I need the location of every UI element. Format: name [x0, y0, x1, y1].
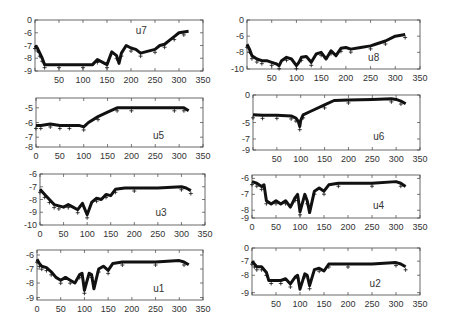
plot-frame	[40, 174, 205, 225]
x-tick-label: 0	[249, 222, 254, 232]
x-tick-label: 350	[195, 151, 210, 161]
plot-frame	[252, 248, 420, 295]
x-tick-label: 250	[148, 151, 163, 161]
y-tick-label: -6	[24, 28, 32, 38]
x-tick-label: 300	[388, 222, 403, 232]
x-tick-label: 50	[54, 75, 64, 85]
x-tick-label: 350	[412, 222, 427, 232]
data-series	[247, 35, 405, 66]
subplot-label: u7	[136, 25, 148, 36]
x-tick-label: 300	[172, 304, 187, 314]
x-tick-label: 200	[124, 304, 139, 314]
x-tick-label: 250	[364, 222, 379, 232]
x-tick-label: 200	[338, 73, 353, 83]
x-tick-label: 100	[292, 299, 307, 309]
x-tick-label: 50	[56, 304, 66, 314]
y-tick-label: -7	[26, 264, 34, 274]
x-tick-label: 50	[271, 299, 281, 309]
y-tick-label: -8	[26, 278, 34, 288]
subplot-label: u8	[368, 52, 380, 63]
x-tick-label: 250	[150, 229, 165, 239]
x-tick-label: 150	[101, 304, 116, 314]
y-tick-label: -6	[241, 173, 249, 183]
x-tick-label: 100	[292, 222, 307, 232]
y-tick-label: -8	[241, 270, 249, 280]
x-tick-label: 300	[388, 299, 403, 309]
x-tick-label: 100	[289, 73, 304, 83]
y-tick-label: -9	[242, 145, 250, 155]
x-tick-label: 200	[341, 154, 356, 164]
y-tick-label: -6	[236, 31, 244, 41]
x-tick-label: 150	[317, 154, 332, 164]
y-tick-label: -6	[25, 118, 33, 128]
y-tick-label: -8	[236, 47, 244, 57]
x-tick-label: 50	[272, 154, 282, 164]
y-tick-label: -10	[24, 220, 37, 230]
subplot-u7: 501001502002503003500-6-7-8-9u7	[24, 15, 211, 85]
x-tick-label: 200	[340, 299, 355, 309]
subplot-u3: 050100150200250300350-6-7-8-9-10u3	[24, 169, 213, 239]
y-tick-label: 0	[244, 243, 249, 253]
x-tick-label: 200	[340, 222, 355, 232]
x-tick-label: 100	[76, 151, 91, 161]
y-tick-label: -7	[25, 132, 33, 142]
y-tick-label: -5	[25, 103, 33, 113]
x-tick-label: 150	[314, 73, 329, 83]
x-tick-label: 150	[99, 75, 114, 85]
x-tick-label: 250	[365, 154, 380, 164]
x-tick-label: 100	[77, 304, 92, 314]
y-tick-label: -8	[29, 195, 37, 205]
y-tick-label: 0	[27, 15, 32, 25]
y-tick-label: -6	[26, 250, 34, 260]
y-tick-label: -7	[29, 182, 37, 192]
x-tick-label: 300	[172, 151, 187, 161]
y-tick-label: 0	[239, 15, 244, 25]
y-tick-label: -7	[241, 189, 249, 199]
plot-frame	[253, 95, 420, 150]
x-tick-label: 200	[123, 75, 138, 85]
y-tick-label: 0	[245, 90, 250, 100]
y-tick-label: -10	[231, 64, 244, 74]
x-tick-label: 250	[363, 73, 378, 83]
x-tick-label: 250	[148, 304, 163, 314]
y-tick-label: -7	[242, 134, 250, 144]
y-tick-label: -7	[24, 41, 32, 51]
subplot-label: u6	[373, 131, 385, 142]
x-tick-label: 50	[267, 73, 277, 83]
figure-canvas: 501001502002503003500-6-7-8-9u7501001502…	[0, 0, 449, 325]
data-series	[37, 259, 189, 290]
x-tick-label: 250	[147, 75, 162, 85]
x-tick-label: 100	[293, 154, 308, 164]
data-series	[35, 31, 189, 64]
x-tick-label: 200	[124, 151, 139, 161]
x-tick-label: 150	[103, 229, 118, 239]
x-tick-label: 150	[316, 299, 331, 309]
plot-frame	[37, 250, 203, 300]
x-tick-label: 0	[37, 229, 42, 239]
plot-frame	[36, 98, 203, 147]
y-tick-label: -8	[24, 53, 32, 63]
y-tick-label: -5	[242, 118, 250, 128]
x-tick-label: 200	[127, 229, 142, 239]
y-tick-label: -9	[24, 66, 32, 76]
subplot-label: u1	[153, 283, 165, 294]
subplot-u4: 050100150200250300350-6-7-8-9u4	[241, 173, 428, 232]
x-tick-label: 50	[55, 151, 65, 161]
x-tick-label: 150	[100, 151, 115, 161]
subplot-u5: 050100150200250300350-5-6-7-8u5	[25, 98, 211, 161]
x-tick-label: 350	[412, 299, 427, 309]
y-tick-label: -9	[241, 288, 249, 298]
x-tick-label: 100	[80, 229, 95, 239]
y-tick-label: -7	[241, 256, 249, 266]
subplot-label: u2	[370, 278, 382, 289]
x-tick-label: 250	[364, 299, 379, 309]
x-tick-label: 350	[195, 304, 210, 314]
x-tick-label: 300	[389, 154, 404, 164]
x-tick-label: 350	[195, 75, 210, 85]
y-tick-label: -9	[29, 207, 37, 217]
x-tick-label: 50	[59, 229, 69, 239]
y-tick-label: -9	[241, 213, 249, 223]
subplot-label: u3	[156, 207, 168, 218]
subplot-label: u4	[373, 200, 385, 211]
x-tick-label: 100	[75, 75, 90, 85]
